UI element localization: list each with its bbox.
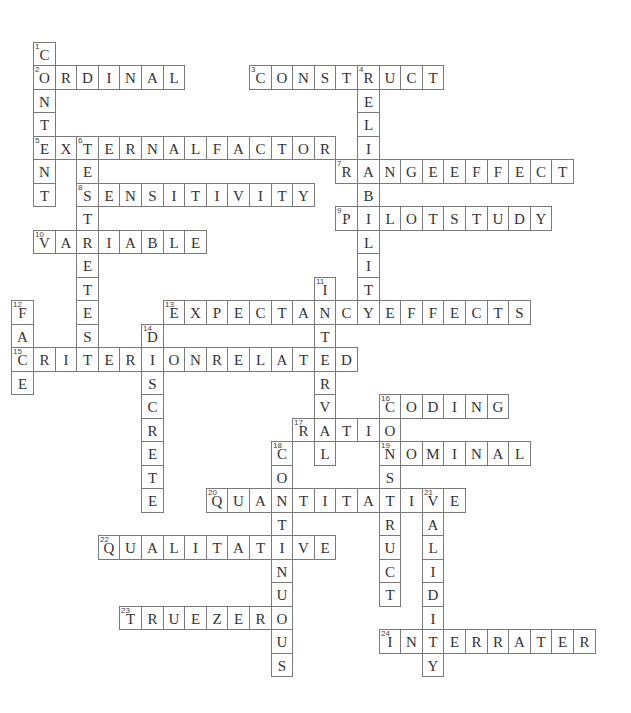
crossword-cell[interactable]: I bbox=[400, 488, 423, 513]
crossword-cell[interactable]: L bbox=[163, 230, 185, 254]
crossword-cell[interactable]: T bbox=[76, 277, 99, 301]
crossword-cell[interactable]: D bbox=[422, 394, 444, 419]
crossword-cell[interactable]: Y bbox=[530, 206, 552, 231]
crossword-cell[interactable]: A bbox=[292, 300, 315, 325]
crossword-cell[interactable]: 4R bbox=[357, 65, 380, 90]
crossword-cell[interactable]: A bbox=[55, 230, 77, 254]
crossword-cell[interactable]: L bbox=[184, 136, 207, 160]
crossword-cell[interactable]: R bbox=[487, 629, 509, 654]
crossword-cell[interactable]: S bbox=[314, 65, 336, 90]
crossword-cell[interactable]: C bbox=[141, 394, 164, 419]
crossword-cell[interactable]: S bbox=[141, 183, 164, 207]
crossword-cell[interactable]: E bbox=[379, 300, 401, 325]
crossword-cell[interactable]: V bbox=[227, 183, 250, 207]
crossword-cell[interactable]: U bbox=[271, 582, 293, 607]
crossword-cell[interactable]: A bbox=[141, 65, 164, 90]
crossword-cell[interactable]: A bbox=[11, 324, 34, 348]
crossword-cell[interactable]: D bbox=[422, 582, 444, 607]
crossword-cell[interactable]: R bbox=[76, 230, 99, 254]
crossword-cell[interactable]: V bbox=[314, 394, 336, 419]
crossword-cell[interactable]: T bbox=[422, 65, 444, 90]
crossword-cell[interactable]: I bbox=[206, 183, 228, 207]
crossword-cell[interactable]: T bbox=[379, 582, 401, 607]
crossword-cell[interactable]: 3C bbox=[249, 65, 272, 90]
crossword-cell[interactable]: V bbox=[292, 535, 315, 560]
crossword-cell[interactable]: A bbox=[119, 230, 142, 254]
crossword-cell[interactable]: R bbox=[141, 606, 164, 630]
crossword-cell[interactable]: R bbox=[141, 418, 164, 442]
crossword-cell[interactable]: E bbox=[98, 183, 120, 207]
crossword-cell[interactable]: A bbox=[271, 347, 293, 372]
crossword-cell[interactable]: P bbox=[206, 300, 228, 325]
crossword-cell[interactable]: C bbox=[335, 300, 358, 325]
crossword-cell[interactable]: E bbox=[357, 89, 380, 113]
crossword-cell[interactable]: I bbox=[443, 441, 466, 466]
crossword-cell[interactable]: R bbox=[119, 136, 142, 160]
crossword-cell[interactable]: R bbox=[314, 371, 336, 395]
crossword-cell[interactable]: L bbox=[249, 347, 272, 372]
crossword-cell[interactable]: R bbox=[119, 347, 142, 372]
crossword-cell[interactable]: 14D bbox=[141, 324, 164, 348]
crossword-cell[interactable]: S bbox=[379, 465, 401, 489]
crossword-cell[interactable]: I bbox=[55, 347, 77, 372]
crossword-cell[interactable]: C bbox=[400, 65, 423, 90]
crossword-cell[interactable]: A bbox=[249, 488, 272, 513]
crossword-cell[interactable]: T bbox=[76, 206, 99, 231]
crossword-cell[interactable]: Z bbox=[206, 606, 228, 630]
crossword-cell[interactable]: T bbox=[141, 465, 164, 489]
crossword-cell[interactable]: I bbox=[163, 183, 185, 207]
crossword-cell[interactable]: I bbox=[98, 65, 120, 90]
crossword-cell[interactable]: D bbox=[76, 65, 99, 90]
crossword-cell[interactable]: E bbox=[184, 606, 207, 630]
crossword-cell[interactable]: T bbox=[33, 183, 56, 207]
crossword-cell[interactable]: B bbox=[357, 183, 380, 207]
crossword-cell[interactable]: U bbox=[163, 606, 185, 630]
crossword-cell[interactable]: C bbox=[249, 136, 272, 160]
crossword-cell[interactable]: A bbox=[227, 535, 250, 560]
crossword-cell[interactable]: 7R bbox=[335, 159, 358, 184]
crossword-cell[interactable]: M bbox=[422, 441, 444, 466]
crossword-cell[interactable]: T bbox=[487, 300, 509, 325]
crossword-cell[interactable]: T bbox=[530, 629, 552, 654]
crossword-cell[interactable]: D bbox=[508, 206, 531, 231]
crossword-cell[interactable]: L bbox=[357, 112, 380, 137]
crossword-cell[interactable]: 9P bbox=[335, 206, 358, 231]
crossword-cell[interactable]: 24I bbox=[379, 629, 401, 654]
crossword-cell[interactable]: 18C bbox=[271, 441, 293, 466]
crossword-cell[interactable]: S bbox=[508, 300, 531, 325]
crossword-cell[interactable]: L bbox=[163, 535, 185, 560]
crossword-cell[interactable]: E bbox=[314, 347, 336, 372]
crossword-cell[interactable]: R bbox=[573, 629, 596, 654]
crossword-cell[interactable]: T bbox=[76, 347, 99, 372]
crossword-cell[interactable]: N bbox=[271, 559, 293, 583]
crossword-cell[interactable]: E bbox=[443, 488, 466, 513]
crossword-cell[interactable]: E bbox=[76, 300, 99, 325]
crossword-cell[interactable]: 20Q bbox=[206, 488, 228, 513]
crossword-cell[interactable]: L bbox=[508, 441, 531, 466]
crossword-cell[interactable]: 19N bbox=[379, 441, 401, 466]
crossword-cell[interactable]: F bbox=[465, 159, 488, 184]
crossword-cell[interactable]: Y bbox=[357, 300, 380, 325]
crossword-cell[interactable]: R bbox=[314, 136, 336, 160]
crossword-cell[interactable]: A bbox=[422, 512, 444, 536]
crossword-cell[interactable]: X bbox=[184, 300, 207, 325]
crossword-cell[interactable]: 13E bbox=[163, 300, 185, 325]
crossword-cell[interactable]: L bbox=[422, 535, 444, 560]
crossword-cell[interactable]: A bbox=[487, 441, 509, 466]
crossword-cell[interactable]: T bbox=[335, 488, 358, 513]
crossword-cell[interactable]: T bbox=[249, 535, 272, 560]
crossword-cell[interactable]: N bbox=[379, 159, 401, 184]
crossword-cell[interactable]: G bbox=[487, 394, 509, 419]
crossword-cell[interactable]: T bbox=[357, 277, 380, 301]
crossword-cell[interactable]: S bbox=[141, 371, 164, 395]
crossword-cell[interactable]: E bbox=[443, 300, 466, 325]
crossword-cell[interactable]: I bbox=[443, 394, 466, 419]
crossword-cell[interactable]: 2O bbox=[33, 65, 56, 90]
crossword-cell[interactable]: E bbox=[227, 347, 250, 372]
crossword-cell[interactable]: C bbox=[249, 300, 272, 325]
crossword-cell[interactable]: O bbox=[379, 418, 401, 442]
crossword-cell[interactable]: U bbox=[487, 206, 509, 231]
crossword-cell[interactable]: E bbox=[184, 230, 207, 254]
crossword-cell[interactable]: L bbox=[163, 65, 185, 90]
crossword-cell[interactable]: T bbox=[551, 159, 574, 184]
